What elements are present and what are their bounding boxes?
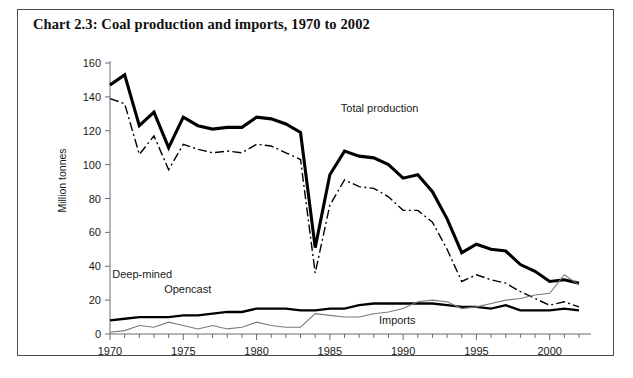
x-tick-label: 1985 [318, 345, 342, 356]
y-tick-label: 0 [95, 328, 101, 340]
x-tick-label: 2000 [537, 345, 561, 356]
y-tick-label: 80 [89, 193, 101, 205]
y-tick-label: 40 [89, 260, 101, 272]
series-line-opencast [110, 304, 579, 321]
series-label-total-production: Total production [341, 102, 419, 114]
y-axis-title: Million tonnes [56, 148, 68, 212]
x-tick-label: 1980 [244, 345, 268, 356]
y-tick-label: 120 [83, 125, 101, 137]
chart-plot: 0204060801001201401601970197519801985199… [17, 9, 614, 356]
y-tick-label: 160 [83, 57, 101, 69]
series-label-opencast: Opencast [164, 283, 211, 295]
y-tick-label: 100 [83, 159, 101, 171]
series-label-imports: Imports [379, 314, 416, 326]
x-tick-label: 1995 [464, 345, 488, 356]
y-tick-label: 60 [89, 226, 101, 238]
series-label-deep-mined: Deep-mined [112, 268, 172, 280]
x-tick-label: 1975 [171, 345, 195, 356]
chart-figure: Chart 2.3: Coal production and imports, … [0, 0, 633, 378]
x-tick-label: 1990 [391, 345, 415, 356]
x-tick-label: 1970 [98, 345, 122, 356]
y-tick-label: 140 [83, 91, 101, 103]
y-tick-label: 20 [89, 294, 101, 306]
series-line-deep-mined [110, 99, 579, 307]
